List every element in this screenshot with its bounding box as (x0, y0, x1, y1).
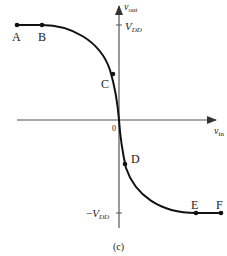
neg-vdd-label: −VDD (86, 207, 109, 221)
origin-label: 0 (112, 124, 116, 133)
vdd-label: VDD (125, 20, 142, 34)
y-axis-label: vout (124, 1, 137, 14)
point-f-label: F (216, 198, 223, 212)
point-a-marker (15, 23, 20, 28)
point-c-label: C (101, 77, 109, 91)
point-b-label: B (38, 30, 46, 44)
point-b-marker (40, 23, 45, 28)
point-d-marker (123, 162, 128, 167)
point-a-label: A (12, 30, 21, 44)
point-d-label: D (131, 152, 140, 166)
figure-caption: (c) (113, 241, 124, 253)
transfer-characteristic-diagram: A B C D E F 0 vout VDD −VDD vin (c) (0, 0, 227, 256)
point-e-label: E (191, 198, 198, 212)
x-axis-label: vin (214, 125, 224, 138)
point-c-marker (111, 72, 116, 77)
